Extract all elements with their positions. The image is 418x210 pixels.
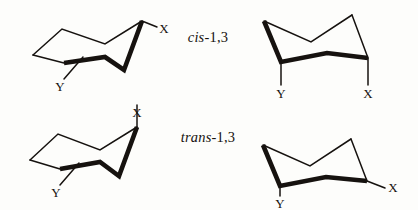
chair-cis-right: Y X	[264, 15, 373, 101]
atom-label-y: Y	[276, 86, 286, 101]
series-label-trans: trans-1,3	[155, 129, 261, 146]
ring-back-bonds	[33, 21, 142, 55]
chair-trans-right: Y X	[263, 139, 398, 210]
atom-label-x: X	[132, 105, 142, 120]
chair-trans-left: X Y	[30, 105, 142, 200]
atom-label-y: Y	[275, 196, 285, 210]
ring-back-bonds	[263, 139, 351, 166]
ring-right-bond	[351, 139, 367, 181]
ring-right-bond	[352, 15, 368, 58]
series-label-cis: cis-1,3	[160, 29, 256, 46]
chair-cis-left: X Y	[33, 21, 169, 94]
bond-to-x	[142, 21, 157, 27]
stereo-descriptor-trans: trans	[181, 129, 212, 145]
ring-back-bonds	[264, 15, 352, 42]
stereo-descriptor-cis: cis	[188, 29, 205, 45]
atom-label-y: Y	[51, 185, 61, 200]
position-descriptor-trans: -1,3	[212, 129, 236, 145]
ring-left-bond	[30, 160, 60, 169]
atom-label-x: X	[388, 180, 398, 195]
atom-label-x: X	[363, 86, 373, 101]
position-descriptor-cis: -1,3	[204, 29, 228, 45]
ring-back-bonds	[30, 127, 137, 160]
atom-label-y: Y	[55, 79, 65, 94]
bond-to-x	[367, 181, 385, 188]
chair-conformation-diagram: X Y Y X X Y	[0, 0, 418, 210]
ring-left-bond	[33, 55, 64, 63]
